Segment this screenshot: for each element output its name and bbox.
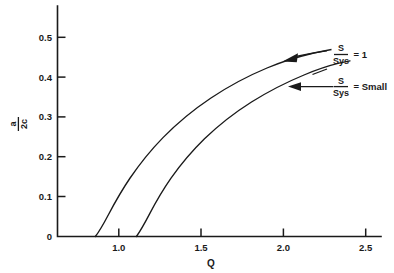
x-tick-label-3: 2.5: [359, 242, 373, 253]
y-tick-label-5: 0: [47, 231, 52, 242]
y-tick-label-4: 0.1: [39, 191, 53, 202]
y-tick-label-3: 0.2: [39, 151, 52, 162]
x-tick-label-0: 1.0: [112, 242, 125, 253]
annotation-upper-numerator: S: [338, 43, 344, 53]
x-axis-title: Q: [207, 258, 215, 269]
y-axis-title-numerator: a: [8, 121, 18, 127]
axis-spines: [58, 6, 382, 237]
y-tick-label-1: 0.4: [39, 72, 53, 83]
y-tick-labels: 0.5 0.4 0.3 0.2 0.1 0: [39, 32, 53, 242]
annotation-leader-s-sys-1: [283, 50, 332, 63]
x-tick-label-2: 2.0: [277, 242, 290, 253]
annotation-upper-denominator: Sys: [333, 56, 349, 66]
x-tick-marks: [119, 229, 366, 237]
annotation-label-s-sys-small: S Sys = Small: [333, 76, 387, 98]
annotation-leader-tick-lower: [313, 69, 328, 75]
annotation-arrowhead-upper: [283, 53, 299, 62]
annotation-leader-line-upper: [294, 50, 332, 57]
x-tick-label-1: 1.5: [194, 242, 208, 253]
annotation-arrowhead-lower: [288, 82, 301, 91]
annotation-lower-equals: = Small: [354, 81, 388, 92]
y-axis-title-denominator: 2c: [19, 119, 29, 129]
chart-canvas: 0.5 0.4 0.3 0.2 0.1 0 1.0 1.5 2.0 2.5 Q …: [0, 0, 394, 273]
y-tick-marks: [58, 37, 66, 196]
chart-figure: 0.5 0.4 0.3 0.2 0.1 0 1.0 1.5 2.0 2.5 Q …: [0, 0, 394, 273]
y-axis-title: a 2c: [8, 117, 30, 131]
annotation-lower-numerator: S: [338, 76, 344, 86]
curve-s-sys-1: [95, 51, 326, 237]
annotation-lower-denominator: Sys: [333, 88, 349, 98]
annotation-upper-equals: = 1: [354, 49, 368, 60]
y-tick-label-0: 0.5: [39, 32, 53, 43]
y-tick-label-2: 0.3: [39, 111, 52, 122]
annotation-label-s-sys-1: S Sys = 1: [333, 43, 368, 65]
x-tick-labels: 1.0 1.5 2.0 2.5: [112, 242, 373, 253]
